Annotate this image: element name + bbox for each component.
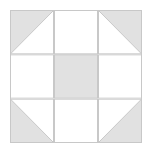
quilt-cell [10,99,54,143]
quilt-cell [98,99,142,143]
quilt-cell [54,10,98,54]
quilt-block [10,10,142,143]
image-canvas [0,0,151,153]
quilt-cell-ground [54,99,98,143]
quilt-cell [98,54,142,98]
quilt-cell [10,54,54,98]
quilt-cell-ground [98,54,142,98]
quilt-cell [98,10,142,54]
quilt-cell [10,10,54,54]
quilt-block-svg [10,10,142,143]
quilt-cell-ground [54,10,98,54]
quilt-cell-ground [10,54,54,98]
quilt-cell [54,99,98,143]
quilt-cell [54,54,98,98]
quilt-cell-ground [54,54,98,98]
